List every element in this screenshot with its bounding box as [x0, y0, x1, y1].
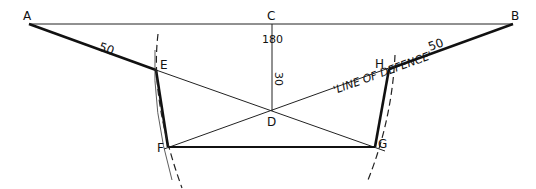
dim-cd-outer: 180: [262, 33, 283, 46]
label-b: B: [511, 9, 519, 23]
label-d: D: [267, 115, 276, 129]
label-c: C: [267, 9, 275, 23]
line-ae-face: [29, 24, 156, 70]
dim-cd-inner: 30: [272, 72, 285, 86]
label-g: G: [378, 137, 387, 151]
fortification-diagram: A C B E H D F G 50 50 180 30 'LINE OF DE…: [0, 0, 536, 189]
label-a: A: [23, 9, 32, 23]
label-e: E: [160, 58, 168, 72]
label-f: F: [157, 141, 164, 155]
